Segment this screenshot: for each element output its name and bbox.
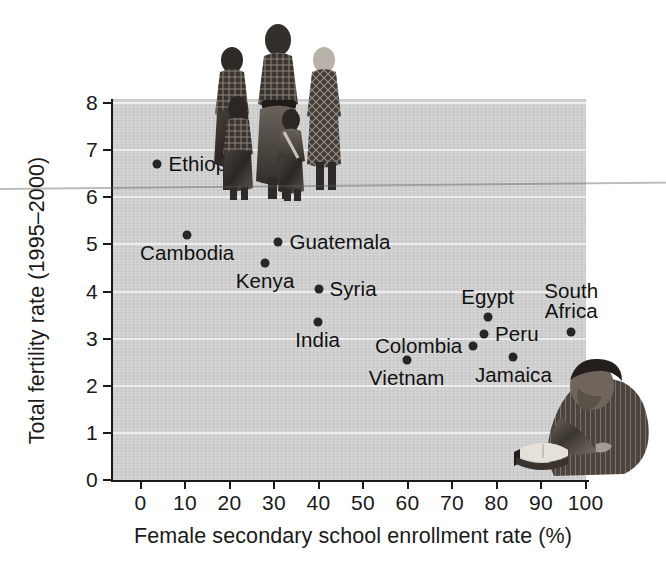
- y-tick-2: [103, 385, 112, 387]
- point-label-cambodia: Cambodia: [140, 243, 234, 264]
- y-tick-8: [103, 102, 112, 104]
- x-tick-10: [184, 480, 186, 489]
- x-tick-0: [140, 480, 142, 489]
- x-tick-label-10: 10: [173, 491, 197, 515]
- data-point-india[interactable]: [313, 318, 322, 327]
- point-label-vietnam: Vietnam: [369, 368, 445, 389]
- data-point-colombia[interactable]: [469, 341, 478, 350]
- y-tick-1: [103, 432, 112, 434]
- family-photo-illustration: [196, 14, 356, 201]
- y-tick-label-4: 4: [86, 280, 98, 304]
- x-tick-label-0: 0: [135, 491, 147, 515]
- x-tick-80: [496, 480, 498, 489]
- x-tick-label-80: 80: [485, 491, 509, 515]
- data-point-peru[interactable]: [480, 329, 489, 338]
- y-tick-5: [103, 243, 112, 245]
- y-tick-label-2: 2: [86, 374, 98, 398]
- point-label-line: South: [544, 281, 598, 302]
- x-axis-title: Female secondary school enrollment rate …: [0, 524, 666, 549]
- y-tick-4: [103, 291, 112, 293]
- point-label-south-africa: SouthAfrica: [544, 281, 598, 323]
- y-tick-label-8: 8: [86, 91, 98, 115]
- point-label-syria: Syria: [330, 279, 377, 300]
- y-tick-0: [103, 479, 112, 481]
- point-label-line: Syria: [330, 279, 377, 300]
- reader-photo: [500, 352, 652, 480]
- x-tick-label-60: 60: [396, 491, 420, 515]
- family-photo: [196, 14, 356, 201]
- y-tick-6: [103, 196, 112, 198]
- y-tick-label-3: 3: [86, 327, 98, 351]
- y-tick-label-0: 0: [86, 468, 98, 492]
- point-label-kenya: Kenya: [236, 271, 295, 292]
- point-label-guatemala: Guatemala: [289, 232, 390, 253]
- x-tick-label-20: 20: [218, 491, 242, 515]
- y-tick-label-6: 6: [86, 185, 98, 209]
- x-tick-label-100: 100: [568, 491, 604, 515]
- x-tick-90: [540, 480, 542, 489]
- x-tick-30: [273, 480, 275, 489]
- point-label-line: Peru: [495, 323, 539, 344]
- point-label-line: Cambodia: [140, 243, 234, 264]
- reader-photo-illustration: [500, 352, 652, 480]
- point-label-line: Vietnam: [369, 368, 445, 389]
- x-tick-label-40: 40: [307, 491, 331, 515]
- point-label-line: India: [295, 330, 340, 351]
- point-label-line: Kenya: [236, 271, 295, 292]
- point-label-colombia: Colombia: [375, 335, 462, 356]
- y-tick-7: [103, 149, 112, 151]
- y-tick-label-7: 7: [86, 138, 98, 162]
- x-axis-line: [111, 480, 589, 482]
- data-point-kenya[interactable]: [261, 259, 270, 268]
- x-tick-70: [451, 480, 453, 489]
- y-axis-title: Total fertility rate (1995–2000): [25, 101, 50, 501]
- data-point-cambodia[interactable]: [183, 230, 192, 239]
- data-point-south-africa[interactable]: [567, 327, 576, 336]
- x-tick-label-50: 50: [351, 491, 375, 515]
- point-label-line: Guatemala: [289, 232, 390, 253]
- x-tick-label-90: 90: [529, 491, 553, 515]
- x-tick-20: [229, 480, 231, 489]
- data-point-ethiopia[interactable]: [153, 160, 162, 169]
- x-tick-50: [362, 480, 364, 489]
- x-tick-label-30: 30: [262, 491, 286, 515]
- point-label-line: Colombia: [375, 335, 462, 356]
- y-tick-label-1: 1: [86, 421, 98, 445]
- data-point-egypt[interactable]: [483, 313, 492, 322]
- point-label-line: Egypt: [461, 288, 514, 309]
- x-tick-100: [585, 480, 587, 489]
- data-point-syria[interactable]: [314, 285, 323, 294]
- point-label-peru: Peru: [495, 323, 539, 344]
- point-label-egypt: Egypt: [461, 288, 514, 309]
- x-tick-40: [318, 480, 320, 489]
- y-tick-label-5: 5: [86, 232, 98, 256]
- point-label-india: India: [295, 330, 340, 351]
- data-point-guatemala[interactable]: [274, 238, 283, 247]
- figure: 012345678 0102030405060708090100 Total f…: [0, 0, 666, 579]
- y-tick-3: [103, 338, 112, 340]
- x-tick-60: [407, 480, 409, 489]
- x-tick-label-70: 70: [440, 491, 464, 515]
- point-label-line: Africa: [544, 302, 598, 323]
- data-point-vietnam[interactable]: [402, 355, 411, 364]
